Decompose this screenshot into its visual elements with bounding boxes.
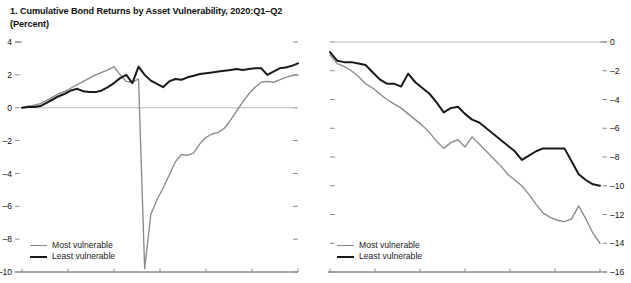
legend-item-least-vulnerable: Least vulnerable xyxy=(337,251,422,262)
legend-item-most-vulnerable: Most vulnerable xyxy=(337,240,422,251)
y-axis-label: –2 xyxy=(610,66,620,76)
panel-1-legend: Most vulnerable Least vulnerable xyxy=(30,240,115,262)
legend-line-least-icon xyxy=(30,256,47,258)
y-axis-label: –4 xyxy=(610,95,620,105)
y-axis-label: 4 xyxy=(7,37,12,47)
y-axis-label: –16 xyxy=(610,267,625,277)
y-axis-label: –8 xyxy=(610,152,620,162)
y-axis-label: 0 xyxy=(610,37,615,47)
legend-line-most-icon xyxy=(30,245,47,246)
chart-panel-2: 2. Cumulative Bond Returns by Asset Vuln… xyxy=(316,0,631,283)
legend-line-least-icon xyxy=(337,256,354,258)
panel-2-legend: Most vulnerable Least vulnerable xyxy=(337,240,422,262)
figure-container: 1. Cumulative Bond Returns by Asset Vuln… xyxy=(0,0,631,283)
y-axis-label: –8 xyxy=(2,234,12,244)
y-axis-label: –6 xyxy=(2,201,12,211)
y-axis-label: –12 xyxy=(610,210,625,220)
series-line-least-vulnerable xyxy=(330,52,600,186)
y-axis-label: 0 xyxy=(7,103,12,113)
y-axis-label: –10 xyxy=(0,267,12,277)
legend-label-most: Most vulnerable xyxy=(52,240,113,251)
chart-panel-1: 1. Cumulative Bond Returns by Asset Vuln… xyxy=(0,0,316,283)
legend-line-most-icon xyxy=(337,245,354,246)
legend-item-least-vulnerable: Least vulnerable xyxy=(30,251,115,262)
y-axis-label: –14 xyxy=(610,238,625,248)
legend-label-least: Least vulnerable xyxy=(359,251,422,262)
y-axis-label: –2 xyxy=(2,136,12,146)
legend-label-most: Most vulnerable xyxy=(359,240,420,251)
legend-label-least: Least vulnerable xyxy=(52,251,115,262)
y-axis-label: –10 xyxy=(610,181,625,191)
y-axis-label: –6 xyxy=(610,123,620,133)
legend-item-most-vulnerable: Most vulnerable xyxy=(30,240,115,251)
series-line-most-vulnerable xyxy=(22,67,298,269)
y-axis-label: –4 xyxy=(2,169,12,179)
y-axis-label: 2 xyxy=(7,70,12,80)
